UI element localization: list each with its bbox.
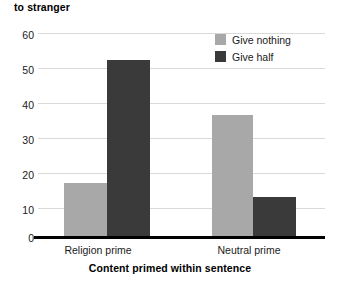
legend-label-give-nothing: Give nothing <box>232 34 291 46</box>
x-tick-label-religion-prime: Religion prime <box>37 244 159 256</box>
legend-item-give-half[interactable]: Give half <box>215 49 291 64</box>
y-tick-label-10: 10 <box>4 205 34 215</box>
bar-neutral-prime-give-half[interactable] <box>253 197 296 238</box>
bar-neutral-prime-give-nothing[interactable] <box>212 115 253 238</box>
bar-group-religion-prime <box>64 27 150 238</box>
legend-swatch-icon-give-half <box>215 51 226 62</box>
y-tick-label-50: 50 <box>4 65 34 75</box>
bar-religion-prime-give-nothing[interactable] <box>64 183 107 238</box>
x-tick-label-neutral-prime: Neutral prime <box>190 244 308 256</box>
bar-chart: to stranger 60 50 40 30 20 10 0 Religion… <box>0 0 340 285</box>
x-axis-line <box>34 236 325 239</box>
legend-item-give-nothing[interactable]: Give nothing <box>215 32 291 47</box>
legend: Give nothing Give half <box>215 32 291 66</box>
y-tick-label-20: 20 <box>4 170 34 180</box>
y-tick-label-40: 40 <box>4 100 34 110</box>
legend-swatch-icon-give-nothing <box>215 34 226 45</box>
bar-religion-prime-give-half[interactable] <box>107 60 150 238</box>
x-axis-title: Content primed within sentence <box>0 262 340 274</box>
y-tick-label-30: 30 <box>4 135 34 145</box>
y-tick-label-0: 0 <box>4 233 34 243</box>
y-tick-label-60: 60 <box>4 30 34 40</box>
legend-label-give-half: Give half <box>232 51 273 63</box>
chart-title: to stranger <box>14 1 70 13</box>
